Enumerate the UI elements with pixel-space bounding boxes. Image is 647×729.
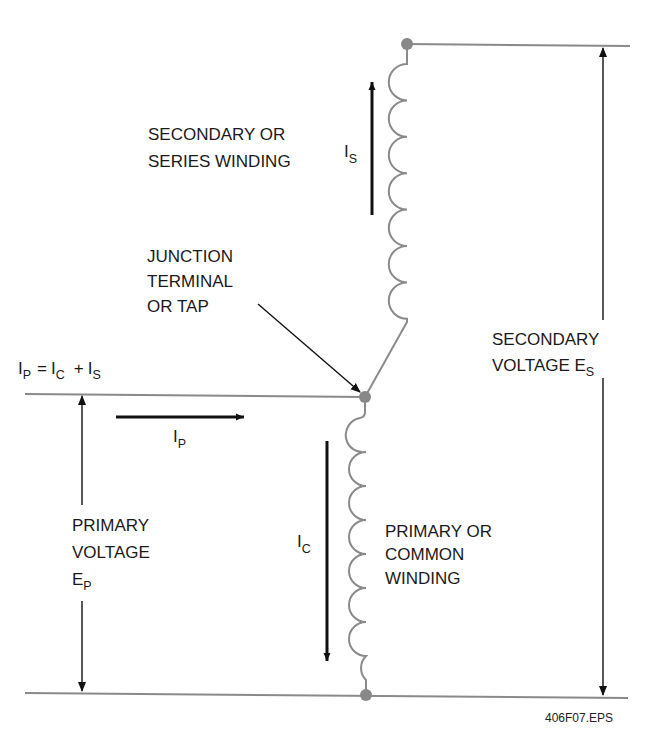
current-equation: IP=IC+IS	[18, 359, 101, 382]
primary-voltage-label: PRIMARY VOLTAGE EP	[72, 516, 155, 593]
primary-winding-label: PRIMARY OR COMMON WINDING	[385, 522, 497, 588]
ic-label: IC	[297, 532, 311, 556]
junction-leader-arrow-icon	[258, 304, 360, 392]
ip-label: IP	[173, 427, 186, 451]
secondary-winding-label: SECONDARY OR SERIES WINDING	[148, 125, 291, 171]
figure-id: 406F07.EPS	[545, 711, 613, 725]
primary-coil	[346, 397, 366, 695]
junction-terminal	[359, 391, 371, 403]
autotransformer-diagram: SECONDARY OR SERIES WINDING IS JUNCTION …	[0, 0, 647, 729]
middle-line	[25, 394, 365, 397]
bottom-terminal	[360, 689, 372, 701]
is-label: IS	[344, 142, 357, 166]
top-line	[407, 44, 630, 46]
top-terminal	[401, 38, 413, 50]
secondary-voltage-label: SECONDARY VOLTAGE ES	[492, 330, 604, 379]
bottom-line	[25, 693, 628, 698]
junction-label: JUNCTION TERMINAL OR TAP	[147, 247, 238, 316]
